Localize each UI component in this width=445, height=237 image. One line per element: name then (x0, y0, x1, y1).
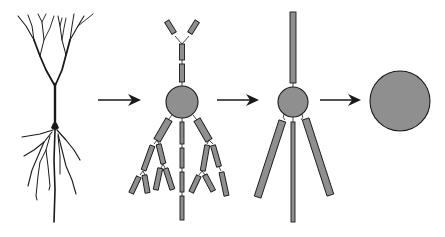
neuron-reduction-diagram (0, 0, 445, 237)
apical-compartments (165, 20, 200, 86)
single-compartment-model (370, 71, 430, 131)
arrow-1 (98, 94, 141, 106)
arrow-2 (217, 94, 259, 106)
soma-compartment (278, 87, 308, 117)
neuron-soma (51, 122, 59, 130)
reduced-compartment-model (254, 12, 333, 222)
right-basal-cylinder (302, 118, 333, 196)
axon-compartments (180, 118, 184, 220)
arrow-3 (320, 94, 361, 106)
right-basal-compartments (189, 115, 229, 196)
multi-compartment-model (129, 20, 229, 220)
left-basal-compartments (129, 115, 175, 194)
axon-cylinder (291, 122, 295, 222)
soma-compartment (166, 86, 198, 118)
single-compartment-soma (370, 71, 430, 131)
pyramidal-neuron-drawing (18, 14, 93, 222)
left-basal-cylinder (254, 120, 285, 198)
apical-cylinder (290, 12, 296, 83)
